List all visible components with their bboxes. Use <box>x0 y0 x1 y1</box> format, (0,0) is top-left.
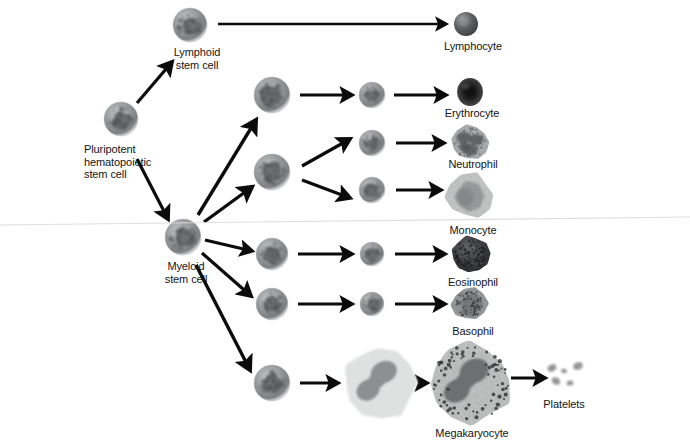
cell-erythrocyte <box>457 78 483 106</box>
label-myeloid-stem-cell: Myeloid stem cell <box>165 260 208 285</box>
platelet-fragment-1 <box>546 363 557 373</box>
cell-pluripotent-stem-cell <box>104 102 138 136</box>
cell-lymphoid-stem-cell <box>173 8 207 42</box>
cell-neutrophil-precursor <box>359 130 385 156</box>
cell-basophil <box>451 287 489 319</box>
cell-basophil-precursor <box>256 288 288 320</box>
cell-megakaryocyte <box>431 341 510 426</box>
cell-lymphocyte <box>454 12 478 36</box>
cell-myeloid-stem-cell <box>165 219 201 255</box>
platelet-fragment-3 <box>572 361 584 372</box>
arrow-myeloblast-to-neutro-pre <box>302 139 350 166</box>
scanner-seam-line <box>0 217 690 225</box>
platelet-fragment-4 <box>550 376 562 387</box>
label-basophil: Basophil <box>452 325 493 338</box>
arrow-pluripotent-to-lymphoid <box>137 62 172 103</box>
label-neutrophil: Neutrophil <box>448 158 497 171</box>
diagram-vector-layer <box>0 0 690 444</box>
label-eosinophil: Eosinophil <box>448 276 498 289</box>
label-platelets: Platelets <box>543 398 584 411</box>
cell-eosinophil <box>452 236 491 272</box>
hematopoiesis-diagram: Pluripotent hematopoietic stem cellLymph… <box>0 0 690 444</box>
platelet-fragment-2 <box>561 368 568 374</box>
cell-myeloblast-shared <box>254 154 290 190</box>
cell-basophil-precursor-2 <box>360 292 384 316</box>
arrow-myeloid-to-eosino-pre <box>205 240 252 251</box>
scanner-seam-line <box>0 217 690 225</box>
cell-monocyte-precursor <box>359 177 385 203</box>
cell-eosinophil-precursor <box>256 238 288 270</box>
arrow-myeloid-to-proerythro <box>198 120 256 215</box>
cell-proerythroblast <box>254 77 290 113</box>
label-monocyte: Monocyte <box>450 224 497 237</box>
cell-promegakaryocyte <box>345 348 417 418</box>
platelets-group <box>546 361 584 387</box>
arrow-myeloblast-to-mono-pre <box>302 180 350 198</box>
label-pluripotent-stem-cell: Pluripotent hematopoietic stem cell <box>84 143 151 181</box>
label-megakaryocyte: Megakaryocyte <box>435 427 508 440</box>
cell-neutrophil <box>452 124 490 158</box>
label-erythrocyte: Erythrocyte <box>445 107 500 120</box>
label-lymphoid-stem-cell: Lymphoid stem cell <box>174 46 221 71</box>
platelet-fragment-5 <box>566 380 574 386</box>
cell-monocyte <box>445 173 494 218</box>
label-lymphocyte: Lymphocyte <box>444 40 502 53</box>
cell-eosinophil-precursor-2 <box>360 242 384 266</box>
cell-normoblast <box>359 82 385 108</box>
cell-megakaryoblast <box>254 365 290 401</box>
